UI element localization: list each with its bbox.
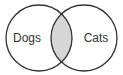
dogs-label: Dogs: [13, 31, 41, 45]
cats-label: Cats: [84, 31, 109, 45]
venn-diagram: Dogs Cats: [0, 0, 123, 75]
